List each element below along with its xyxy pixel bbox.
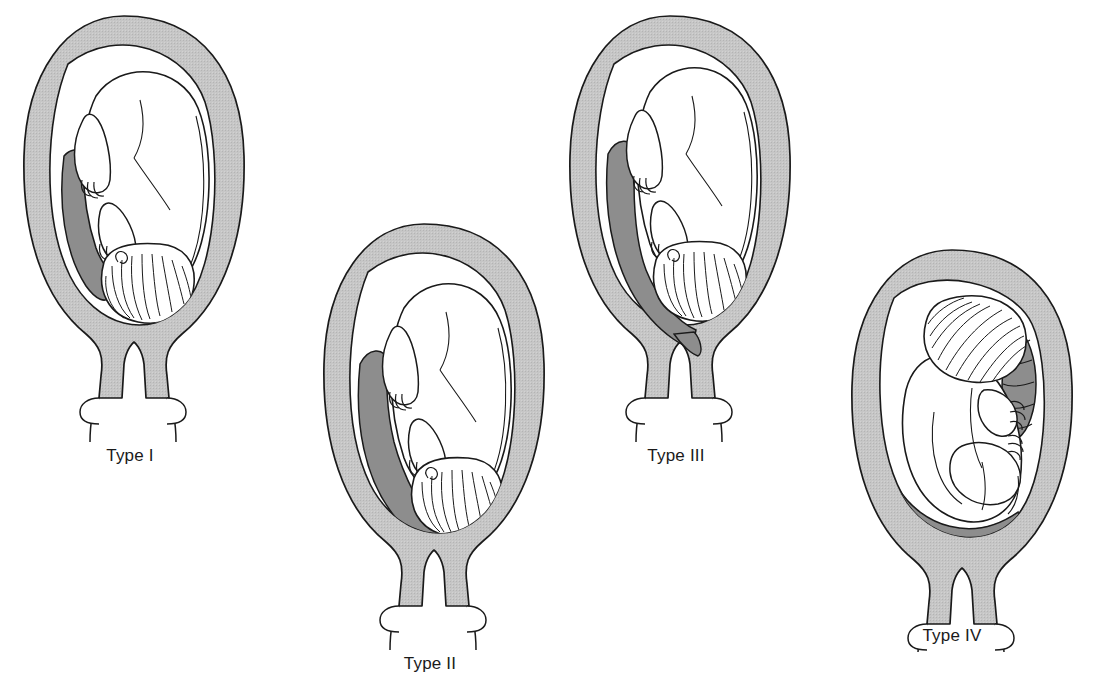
panel-type-1: Type I: [0, 4, 260, 444]
panel-type-3: Type III: [546, 4, 806, 444]
diagram-type-1: [0, 4, 260, 444]
panel-type-4: Type IV: [822, 212, 1082, 652]
vagina-type-1: [80, 398, 186, 442]
diagram-type-4: [822, 212, 1082, 652]
panel-type-2: Type II: [300, 212, 560, 652]
diagram-type-3: [546, 4, 806, 444]
caption-type-4: Type IV: [822, 626, 1082, 646]
placenta-previa-figure: Type I: [0, 0, 1095, 683]
caption-type-1: Type I: [0, 446, 260, 466]
vagina-type-3: [626, 398, 732, 442]
caption-type-2: Type II: [300, 654, 560, 674]
caption-type-3: Type III: [546, 446, 806, 466]
vagina-type-2: [380, 606, 486, 650]
diagram-type-2: [300, 212, 560, 652]
